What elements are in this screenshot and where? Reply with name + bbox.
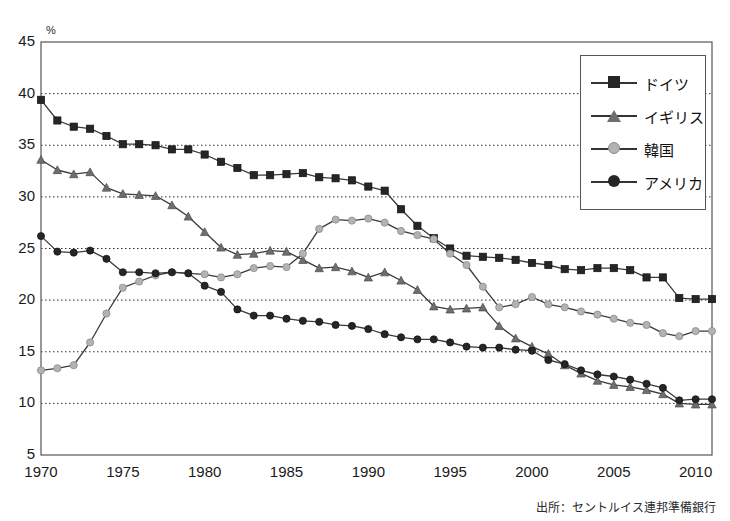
y-tick-label: 40 (5, 84, 35, 101)
data-point (136, 141, 143, 148)
data-point (37, 156, 45, 164)
data-point (185, 146, 192, 153)
data-point (708, 328, 715, 335)
data-point (201, 271, 208, 278)
data-point (136, 269, 143, 276)
data-point (414, 336, 421, 343)
data-point (217, 288, 224, 295)
data-point (692, 295, 699, 302)
data-point (496, 344, 503, 351)
data-point (283, 171, 290, 178)
data-point (512, 346, 519, 353)
data-point (103, 255, 110, 262)
data-point (348, 217, 355, 224)
legend-label: 韓国 (644, 139, 674, 160)
x-tick-label: 2005 (584, 463, 644, 480)
legend-item-2[interactable]: 韓国 (581, 136, 705, 162)
data-point (234, 306, 241, 313)
legend-label: イギリス (644, 106, 704, 127)
data-point (267, 262, 274, 269)
data-point (610, 315, 617, 322)
data-point (430, 336, 437, 343)
data-point (185, 270, 192, 277)
x-tick-label: 1995 (420, 463, 480, 480)
x-tick-label: 1970 (11, 463, 71, 480)
y-tick-label: 30 (5, 187, 35, 204)
data-point (659, 330, 666, 337)
data-point (381, 187, 388, 194)
data-point (594, 311, 601, 318)
data-point (299, 170, 306, 177)
data-point (610, 265, 617, 272)
legend-item-3[interactable]: アメリカ (581, 169, 705, 195)
data-point (37, 367, 44, 374)
data-point (545, 301, 552, 308)
data-point (217, 274, 224, 281)
data-point (479, 253, 486, 260)
data-point (37, 233, 44, 240)
data-point (561, 361, 568, 368)
x-tick-label: 1980 (175, 463, 235, 480)
data-point (348, 322, 355, 329)
data-point (283, 315, 290, 322)
data-point (217, 158, 224, 165)
data-point (676, 397, 683, 404)
legend-label: アメリカ (644, 172, 703, 193)
x-tick-label: 2010 (666, 463, 726, 480)
data-point (299, 250, 306, 257)
data-point (627, 319, 634, 326)
data-point (479, 283, 486, 290)
data-point (692, 396, 699, 403)
data-point (54, 365, 61, 372)
data-point (234, 164, 241, 171)
data-point (299, 317, 306, 324)
data-point (365, 215, 372, 222)
legend-item-0[interactable]: ドイツ (581, 70, 705, 96)
y-tick-label: 10 (5, 393, 35, 410)
data-point (463, 252, 470, 259)
data-point (627, 267, 634, 274)
data-point (250, 265, 257, 272)
data-point (463, 343, 470, 350)
x-tick-label: 1985 (256, 463, 316, 480)
data-point (70, 123, 77, 130)
data-point (332, 175, 339, 182)
data-point (414, 231, 421, 238)
x-tick-label: 2000 (502, 463, 562, 480)
data-point (332, 216, 339, 223)
data-point (53, 166, 61, 174)
data-point (528, 259, 535, 266)
data-point (577, 367, 584, 374)
data-point (152, 270, 159, 277)
data-point (54, 117, 61, 124)
legend-item-1[interactable]: イギリス (581, 103, 705, 129)
data-point (119, 284, 126, 291)
y-tick-label: 45 (5, 32, 35, 49)
data-point (316, 318, 323, 325)
data-point (103, 132, 110, 139)
data-point (577, 267, 584, 274)
data-point (37, 96, 44, 103)
data-point (561, 266, 568, 273)
x-tick-label: 1990 (338, 463, 398, 480)
data-point (103, 310, 110, 317)
series-2 (37, 215, 715, 374)
data-point (316, 225, 323, 232)
legend-marker-circle-icon (591, 172, 637, 192)
data-point (136, 278, 143, 285)
data-point (708, 396, 715, 403)
data-point (86, 247, 93, 254)
data-point (643, 380, 650, 387)
data-point (430, 236, 437, 243)
data-point (380, 268, 388, 276)
data-point (479, 344, 486, 351)
data-point (545, 261, 552, 268)
chart-legend: ドイツイギリス韓国アメリカ (580, 55, 706, 210)
legend-marker-diamond-icon (591, 139, 637, 159)
data-point (267, 312, 274, 319)
data-point (397, 276, 405, 284)
data-point (168, 146, 175, 153)
data-point (201, 282, 208, 289)
y-tick-label: 25 (5, 239, 35, 256)
data-point (627, 376, 634, 383)
